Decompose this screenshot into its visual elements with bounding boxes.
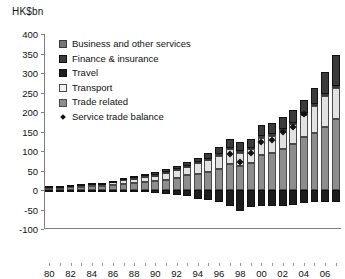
bar-group xyxy=(268,34,276,229)
bar-segment-finance xyxy=(67,185,75,187)
bar-segment-business xyxy=(151,175,159,177)
bar-segment-finance xyxy=(268,123,276,134)
legend-swatch-trade-icon xyxy=(59,99,67,107)
legend-label-trade: Trade related xyxy=(72,95,128,110)
x-axis-tick-mark xyxy=(60,263,61,266)
y-axis-tick-label: 100 xyxy=(0,146,38,157)
x-axis-tick-label: 86 xyxy=(108,268,119,279)
bar-segment-business xyxy=(236,151,244,153)
bar-segment-trade xyxy=(194,174,202,190)
x-axis-tick-mark xyxy=(240,263,241,266)
bar-segment-finance xyxy=(88,183,96,185)
bar-segment-finance xyxy=(109,181,117,183)
legend-item-business: Business and other services xyxy=(59,37,191,52)
bar-segment-business xyxy=(173,169,181,171)
bar-segment-travel xyxy=(194,190,202,199)
bar-group xyxy=(45,34,53,229)
x-axis-tick-mark xyxy=(102,263,103,266)
bar-segment-finance xyxy=(332,55,340,86)
bar-segment-travel xyxy=(332,190,340,202)
x-axis-tick-mark xyxy=(325,263,326,266)
bar-segment-trade xyxy=(204,172,212,190)
bar-segment-travel xyxy=(300,190,308,203)
bar-segment-finance xyxy=(56,186,64,188)
y-axis-tick-label: -50 xyxy=(0,204,38,215)
bar-segment-finance xyxy=(321,72,329,94)
x-axis-tick-label: 96 xyxy=(214,268,225,279)
y-axis-tick-label: 300 xyxy=(0,68,38,79)
legend-swatch-diamond-icon xyxy=(59,113,67,121)
bar-segment-travel xyxy=(141,190,149,192)
x-axis-tick-label: 82 xyxy=(65,268,76,279)
bar-segment-travel xyxy=(268,190,276,206)
bar-segment-travel xyxy=(88,190,96,192)
bar-group xyxy=(332,34,340,229)
y-axis-tick-mark xyxy=(41,34,44,35)
x-axis-tick-mark xyxy=(293,263,294,266)
bar-segment-travel xyxy=(67,190,75,192)
bar-segment-trade xyxy=(183,175,191,190)
bar-group xyxy=(236,34,244,229)
x-axis-tick-label: 98 xyxy=(235,268,246,279)
bar-segment-finance xyxy=(204,153,212,158)
x-axis-tick-label: 00 xyxy=(256,268,267,279)
bar-segment-travel xyxy=(45,190,53,192)
bar-segment-travel xyxy=(56,190,64,192)
bar-segment-finance xyxy=(98,183,106,185)
bar-segment-finance xyxy=(45,186,53,188)
bar-segment-travel xyxy=(183,190,191,196)
y-axis-tick-mark xyxy=(41,151,44,152)
y-axis-tick-label: 150 xyxy=(0,126,38,137)
legend-swatch-finance-icon xyxy=(59,55,67,63)
bar-segment-trade xyxy=(321,127,329,190)
x-axis-tick-mark xyxy=(134,263,135,266)
legend-item-transport: Transport xyxy=(59,81,191,96)
x-axis-tick-mark xyxy=(81,263,82,266)
bar-group xyxy=(258,34,266,229)
x-axis-tick-mark xyxy=(198,263,199,266)
bar-group xyxy=(321,34,329,229)
bar-segment-trade xyxy=(332,119,340,190)
legend-label-balance: Service trade balance xyxy=(72,110,164,125)
bar-segment-finance xyxy=(236,142,244,151)
y-axis-tick-mark xyxy=(41,229,44,230)
bar-segment-business xyxy=(162,172,170,174)
bar-group xyxy=(194,34,202,229)
x-axis-tick-mark xyxy=(49,263,50,266)
chart-legend: Business and other services Finance & in… xyxy=(59,37,191,125)
x-axis-tick-label: 02 xyxy=(277,268,288,279)
x-axis-tick-mark xyxy=(208,263,209,266)
legend-label-transport: Transport xyxy=(72,81,112,96)
x-axis-tick-label: 04 xyxy=(299,268,310,279)
bar-segment-trade xyxy=(289,144,297,190)
bar-segment-trade xyxy=(258,155,266,190)
legend-item-travel: Travel xyxy=(59,66,191,81)
x-axis-tick-mark xyxy=(166,263,167,266)
x-axis-tick-mark xyxy=(283,263,284,266)
bar-segment-business xyxy=(141,176,149,178)
bar-segment-finance xyxy=(77,184,85,186)
x-axis-tick-mark xyxy=(71,263,72,266)
bar-group xyxy=(311,34,319,229)
x-axis-tick-mark xyxy=(113,263,114,266)
legend-label-travel: Travel xyxy=(72,66,98,81)
legend-swatch-business-icon xyxy=(59,40,67,48)
bar-segment-travel xyxy=(109,190,117,192)
bar-segment-transport xyxy=(332,88,340,119)
y-axis-tick-label: 400 xyxy=(0,29,38,40)
bar-group xyxy=(226,34,234,229)
x-axis-tick-mark xyxy=(177,263,178,266)
bar-segment-trade xyxy=(226,164,234,190)
bar-segment-business xyxy=(183,166,191,168)
bar-segment-business xyxy=(258,136,266,138)
x-axis-tick-label: 88 xyxy=(129,268,140,279)
bar-segment-finance xyxy=(289,110,297,122)
legend-label-finance: Finance & insurance xyxy=(72,52,159,67)
y-axis-tick-mark xyxy=(41,171,44,172)
bar-segment-travel xyxy=(321,190,329,202)
bar-segment-trade xyxy=(130,183,138,190)
y-axis-tick-label: 50 xyxy=(0,165,38,176)
bar-segment-finance xyxy=(130,176,138,178)
bar-segment-trade xyxy=(279,149,287,190)
